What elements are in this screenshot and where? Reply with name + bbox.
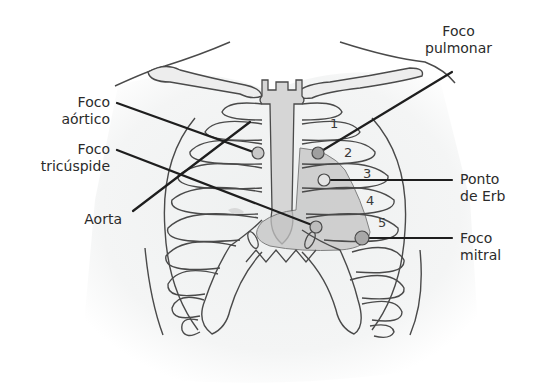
intercostal-number-1: 1 <box>330 116 338 131</box>
label-foco-tricuspide: Foco tricúspide <box>41 141 110 175</box>
label-aorta: Aorta <box>84 211 122 228</box>
thorax-illustration: 1 2 3 4 5 <box>0 0 537 388</box>
auscultation-diagram: 1 2 3 4 5 Foco aórtico Foco t <box>0 0 537 388</box>
ponto-de-erb-point <box>318 174 330 186</box>
foco-tricuspide-point <box>310 221 322 233</box>
intercostal-number-2: 2 <box>344 145 352 160</box>
intercostal-number-3: 3 <box>363 166 371 181</box>
foco-mitral-point <box>355 231 369 245</box>
label-foco-pulmonar: Foco pulmonar <box>425 23 492 57</box>
label-ponto-de-erb: Ponto de Erb <box>460 171 505 205</box>
intercostal-number-5: 5 <box>378 215 386 230</box>
label-foco-mitral: Foco mitral <box>460 230 501 264</box>
foco-pulmonar-point <box>312 147 324 159</box>
label-foco-aortico: Foco aórtico <box>61 94 110 128</box>
intercostal-number-4: 4 <box>366 193 374 208</box>
foco-aortico-point <box>252 147 264 159</box>
